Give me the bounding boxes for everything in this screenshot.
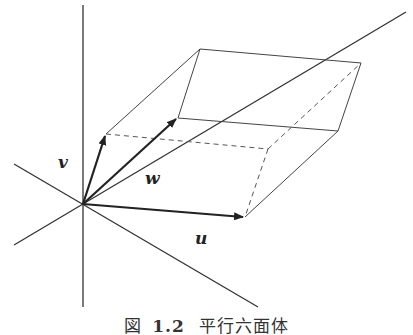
caption-label: 図 xyxy=(124,316,142,335)
diagonal-axis-up xyxy=(14,12,406,245)
label-w: w xyxy=(145,168,160,188)
caption-number: 1.2 xyxy=(152,316,185,335)
label-v: v xyxy=(58,152,68,172)
hidden-edges xyxy=(106,63,361,217)
vector-u-arrow xyxy=(83,204,243,217)
label-u: u xyxy=(195,228,207,248)
box-edges xyxy=(106,49,361,217)
caption-text: 平行六面体 xyxy=(199,316,289,335)
figure-caption: 図1.2平行六面体 xyxy=(0,312,413,335)
diagonal-axis-down xyxy=(14,164,258,307)
